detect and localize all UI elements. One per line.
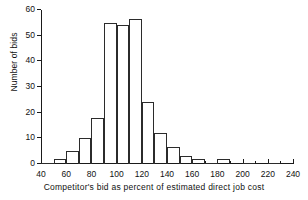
y-tick-label: 50 <box>26 30 35 40</box>
histogram-bar <box>117 25 130 164</box>
y-axis-title: Number of bids <box>9 2 19 122</box>
y-tick-label: 30 <box>26 81 35 91</box>
x-tick-minor <box>280 161 281 164</box>
histogram-bar <box>79 138 92 164</box>
y-tick-label: 10 <box>26 132 35 142</box>
y-tick-label: 40 <box>26 55 35 65</box>
histogram-bar <box>268 163 281 164</box>
y-axis-line <box>41 10 42 164</box>
x-tick-label: 40 <box>36 169 45 179</box>
y-tick: 10 <box>37 137 41 138</box>
y-tick: 30 <box>37 86 41 87</box>
histogram-bar <box>192 159 205 164</box>
x-tick-label: 100 <box>110 169 124 179</box>
y-tick: 20 <box>37 112 41 113</box>
x-tick-label: 60 <box>61 169 70 179</box>
y-tick-label: 20 <box>26 107 35 117</box>
histogram-bar <box>154 133 167 164</box>
histogram-bar <box>243 163 256 164</box>
histogram-bar <box>180 156 193 164</box>
y-tick: 50 <box>37 35 41 36</box>
y-tick: 60 <box>37 9 41 10</box>
x-tick-label: 240 <box>286 169 300 179</box>
histogram-bar <box>41 163 54 164</box>
y-tick: 40 <box>37 60 41 61</box>
y-tick-label: 60 <box>26 4 35 14</box>
histogram-bar <box>129 19 142 164</box>
plot-area: 0102030405060 40608010012014016018020022… <box>41 10 293 164</box>
x-tick-label: 160 <box>185 169 199 179</box>
x-tick <box>293 159 294 164</box>
histogram-bar <box>104 23 117 164</box>
histogram-bar <box>167 147 180 164</box>
histogram-bar <box>205 163 218 164</box>
x-tick-label: 80 <box>87 169 96 179</box>
x-tick-label: 220 <box>261 169 275 179</box>
y-tick-label: 0 <box>30 158 35 168</box>
x-tick-label: 120 <box>135 169 149 179</box>
x-tick-minor <box>255 161 256 164</box>
x-tick-label: 180 <box>210 169 224 179</box>
histogram-bar <box>54 159 67 164</box>
x-tick-minor <box>230 161 231 164</box>
histogram-bar <box>91 118 104 164</box>
x-tick-label: 200 <box>236 169 250 179</box>
histogram-bar <box>142 102 155 164</box>
histogram-bar <box>217 159 230 164</box>
histogram-figure: Number of bids 0102030405060 40608010012… <box>0 0 308 200</box>
x-tick-label: 140 <box>160 169 174 179</box>
histogram-bar <box>66 151 79 164</box>
x-axis-title: Competitor's bid as percent of estimated… <box>0 182 308 192</box>
